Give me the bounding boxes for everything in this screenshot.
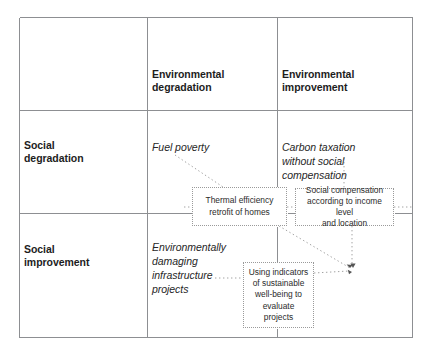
row-header-line1: Social [24,139,142,152]
row-header-line1: Social [24,243,142,256]
quadrant-label-carbon-taxation: Carbon taxation without social compensat… [282,141,410,183]
intervention-box-thermal-efficiency[interactable]: Thermal efficiency retrofit of homes [192,187,287,226]
column-header-line2: improvement [282,81,407,94]
quadrant-label-line1: Environmentally [152,241,262,255]
column-header-environmental-improvement: Environmental improvement [282,68,407,95]
box-line2: of sustainable [249,278,309,289]
column-header-line2: degradation [152,81,272,94]
box-line1: Using indicators [249,267,309,278]
box-line3: well-being to [249,289,309,300]
box-line2: retrofit of homes [206,207,274,218]
intervention-box-social-compensation[interactable]: Social compensation according to income … [295,188,394,226]
quadrant-label-fuel-poverty: Fuel poverty [152,141,272,155]
quadrant-label-line: Fuel poverty [152,141,272,155]
row-header-social-degradation: Social degradation [24,139,142,166]
box-line5: projects [249,312,309,323]
quadrant-label-line2: without social compensation [282,155,410,183]
quadrant-label-line1: Carbon taxation [282,141,410,155]
box-line4: evaluate [249,301,309,312]
row-header-line2: degradation [24,152,142,165]
row-header-line2: improvement [24,256,142,269]
column-header-line1: Environmental [152,68,272,81]
box-line2: according to income level [299,196,390,218]
intervention-box-indicators[interactable]: Using indicators of sustainable well-bei… [243,262,314,328]
diagram-canvas: Environmental degradation Environmental … [0,0,431,353]
row-header-social-improvement: Social improvement [24,243,142,270]
box-line1: Social compensation [299,185,390,196]
box-line1: Thermal efficiency [206,195,274,206]
box-line3: and location [299,218,390,229]
column-header-line1: Environmental [282,68,407,81]
column-header-environmental-degradation: Environmental degradation [152,68,272,95]
